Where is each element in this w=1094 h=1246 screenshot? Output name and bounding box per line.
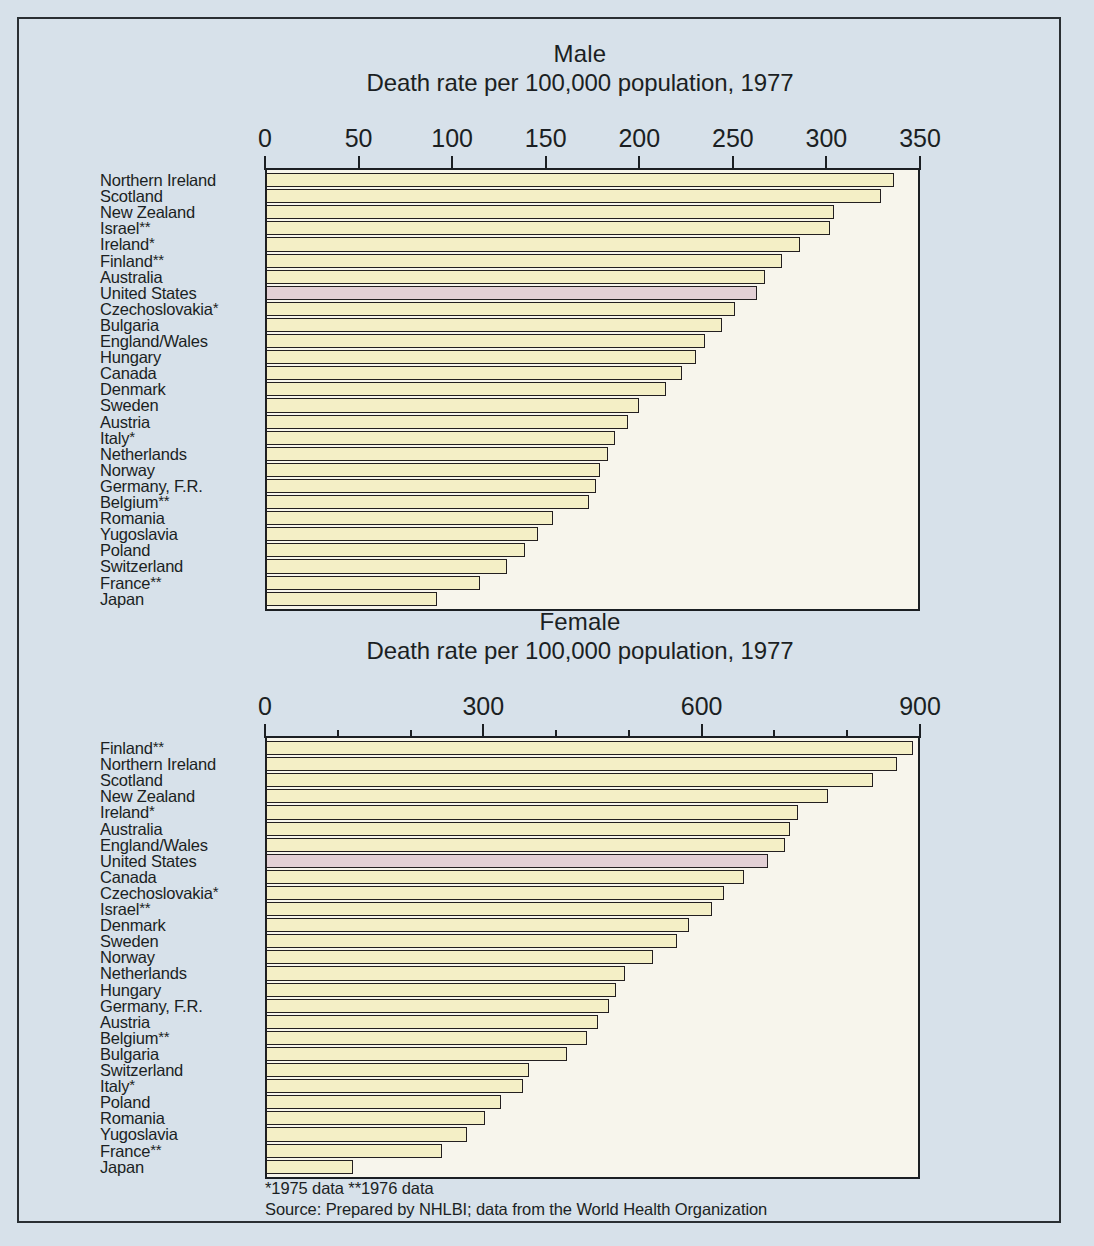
- bar: [266, 741, 913, 755]
- category-label: Northern Ireland: [100, 756, 260, 772]
- bar: [266, 302, 735, 316]
- footnote-data-years: *1975 data **1976 data: [265, 1178, 767, 1199]
- category-label: Israel**: [100, 901, 260, 917]
- category-label: Japan: [100, 591, 260, 607]
- bar: [266, 398, 639, 412]
- bar: [266, 559, 507, 573]
- chart-male-sex-title: Male: [230, 40, 930, 68]
- x-axis-tick-label: 0: [258, 124, 272, 153]
- category-label: Finland**: [100, 740, 260, 756]
- category-label: New Zealand: [100, 204, 260, 220]
- category-label: Netherlands: [100, 446, 260, 462]
- bar: [266, 237, 800, 251]
- chart-female-subtitle: Death rate per 100,000 population, 1977: [230, 636, 930, 666]
- category-label: Austria: [100, 1014, 260, 1030]
- category-label: Switzerland: [100, 558, 260, 574]
- category-label: Yugoslavia: [100, 1126, 260, 1142]
- bar: [266, 1063, 529, 1077]
- category-label: Australia: [100, 821, 260, 837]
- category-label: Northern Ireland: [100, 172, 260, 188]
- category-label: Ireland*: [100, 236, 260, 252]
- category-label: Denmark: [100, 381, 260, 397]
- category-label: Denmark: [100, 917, 260, 933]
- chart-male-category-labels: Northern IrelandScotlandNew ZealandIsrae…: [100, 168, 260, 611]
- x-axis-tick-label: 100: [431, 124, 473, 153]
- category-label: Canada: [100, 869, 260, 885]
- bar: [266, 318, 722, 332]
- category-label: England/Wales: [100, 333, 260, 349]
- category-label: New Zealand: [100, 788, 260, 804]
- x-axis-tick-label: 600: [681, 692, 723, 721]
- bar: [266, 1144, 442, 1158]
- category-label: Hungary: [100, 349, 260, 365]
- category-label: Canada: [100, 365, 260, 381]
- bar: [266, 1095, 501, 1109]
- category-label: Italy*: [100, 1078, 260, 1094]
- bar: [266, 902, 712, 916]
- bar: [266, 173, 894, 187]
- category-label: Romania: [100, 1110, 260, 1126]
- bar: [266, 757, 897, 771]
- footnotes: *1975 data **1976 data Source: Prepared …: [265, 1178, 767, 1220]
- x-axis-tick-label: 900: [899, 692, 941, 721]
- x-axis-tick-label: 150: [525, 124, 567, 153]
- x-axis-tick-label: 300: [462, 692, 504, 721]
- bar: [266, 854, 768, 868]
- category-label: Belgium**: [100, 1030, 260, 1046]
- bar: [266, 1031, 587, 1045]
- category-label: Sweden: [100, 933, 260, 949]
- bar: [266, 983, 616, 997]
- category-label: Czechoslovakia*: [100, 301, 260, 317]
- bar: [266, 334, 705, 348]
- x-axis-tick-label: 250: [712, 124, 754, 153]
- bar: [266, 1127, 467, 1141]
- chart-female-sex-title: Female: [230, 608, 930, 636]
- category-label: Finland**: [100, 253, 260, 269]
- bar: [266, 999, 609, 1013]
- category-label: Netherlands: [100, 965, 260, 981]
- bar: [266, 286, 757, 300]
- category-label: Switzerland: [100, 1062, 260, 1078]
- x-axis-tick-label: 50: [345, 124, 373, 153]
- bar: [266, 221, 830, 235]
- chart-female-titles: Female Death rate per 100,000 population…: [230, 608, 930, 666]
- bar: [266, 1111, 485, 1125]
- category-label: Germany, F.R.: [100, 998, 260, 1014]
- category-label: Norway: [100, 462, 260, 478]
- chart-male-titles: Male Death rate per 100,000 population, …: [230, 40, 930, 98]
- category-label: Norway: [100, 949, 260, 965]
- bar: [266, 543, 525, 557]
- bar: [266, 805, 798, 819]
- category-label: Hungary: [100, 982, 260, 998]
- x-axis-tick-label: 0: [258, 692, 272, 721]
- category-label: Scotland: [100, 772, 260, 788]
- bar: [266, 592, 437, 606]
- bar: [266, 789, 828, 803]
- category-label: Sweden: [100, 397, 260, 413]
- bar: [266, 838, 785, 852]
- bar: [266, 576, 480, 590]
- chart-female-bars: [267, 738, 918, 1177]
- bar: [266, 870, 744, 884]
- x-axis-tick-label: 200: [618, 124, 660, 153]
- bar: [266, 773, 873, 787]
- bar: [266, 886, 724, 900]
- category-label: England/Wales: [100, 837, 260, 853]
- bar: [266, 463, 600, 477]
- bar: [266, 350, 696, 364]
- category-label: France**: [100, 1143, 260, 1159]
- bar: [266, 415, 628, 429]
- bar: [266, 254, 782, 268]
- bar: [266, 966, 625, 980]
- bar: [266, 934, 677, 948]
- bar: [266, 189, 881, 203]
- bar: [266, 950, 653, 964]
- bar: [266, 511, 553, 525]
- category-label: Scotland: [100, 188, 260, 204]
- bar: [266, 270, 765, 284]
- chart-male-subtitle: Death rate per 100,000 population, 1977: [230, 68, 930, 98]
- category-label: France**: [100, 575, 260, 591]
- category-label: Austria: [100, 414, 260, 430]
- category-label: Romania: [100, 510, 260, 526]
- category-label: Japan: [100, 1159, 260, 1175]
